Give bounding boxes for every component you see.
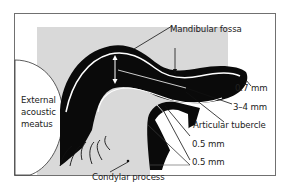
label-thickness-0-7mm: 0.7 mm (235, 83, 268, 93)
label-external-acoustic-meatus-3: meatus (21, 119, 53, 129)
label-thickness-0-5mm-a: 0.5 mm (192, 139, 225, 149)
label-external-acoustic-meatus-1: External (21, 95, 56, 105)
label-thickness-0-5mm-b: 0.5 mm (192, 157, 225, 167)
label-thickness-3-4mm: 3–4 mm (233, 102, 267, 112)
label-articular-tubercle: Articular tubercle (193, 120, 266, 130)
label-condylar-process: Condylar process (92, 172, 165, 182)
label-mandibular-fossa: Mandibular fossa (170, 24, 242, 34)
label-external-acoustic-meatus-2: acoustic (21, 107, 56, 117)
